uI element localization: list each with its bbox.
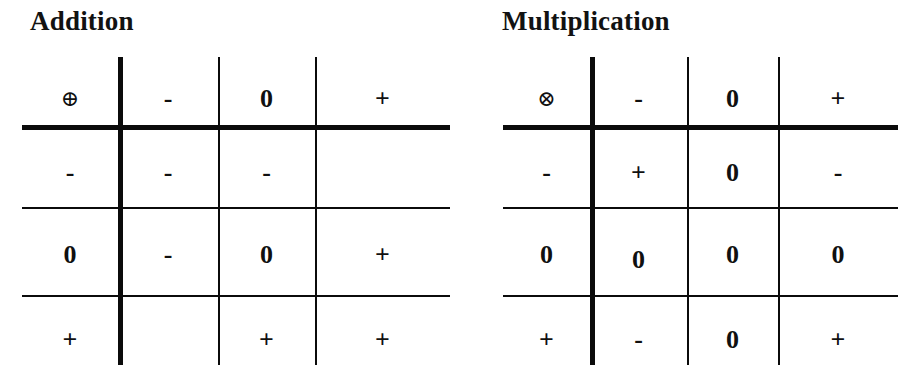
table-cell: +: [315, 312, 450, 367]
addition-table-grid: ⊕ - 0 + - - - 0 - 0 + + + +: [22, 57, 450, 367]
multiplication-operator-symbol: ⊗: [503, 73, 590, 125]
multiplication-row-header-0: -: [503, 145, 590, 201]
table-cell: +: [315, 225, 450, 285]
addition-row-rule-2: [22, 295, 450, 297]
table-cell: -: [118, 145, 218, 201]
addition-operator-symbol: ⊕: [22, 73, 118, 125]
multiplication-row-rule-1: [503, 207, 898, 209]
multiplication-row-rule-2: [503, 295, 898, 297]
addition-row-rule-1: [22, 207, 450, 209]
circled-times-icon: ⊗: [537, 88, 555, 110]
multiplication-table-block: Multiplication ⊗ - 0 + - + 0 - 0 0 0: [480, 0, 887, 377]
table-cell: 0: [687, 145, 778, 201]
table-cell: -: [778, 145, 898, 201]
multiplication-col-header-1: 0: [687, 73, 778, 125]
table-cell: 0: [687, 225, 778, 285]
table-cell: [118, 312, 218, 367]
multiplication-col-header-0: -: [590, 73, 687, 125]
addition-row-header-0: -: [22, 145, 118, 201]
multiplication-table-title: Multiplication: [502, 8, 670, 35]
table-cell: +: [218, 312, 315, 367]
table-cell: 0: [687, 312, 778, 367]
multiplication-row-header-2: +: [503, 312, 590, 367]
addition-row-header-2: +: [22, 312, 118, 367]
table-cell: +: [778, 312, 898, 367]
multiplication-col-header-2: +: [778, 73, 898, 125]
multiplication-header-rule: [503, 125, 898, 130]
addition-table-title: Addition: [30, 8, 134, 35]
addition-col-header-1: 0: [218, 73, 315, 125]
table-cell: 0: [218, 225, 315, 285]
table-cell: -: [218, 145, 315, 201]
addition-header-rule: [22, 125, 450, 130]
multiplication-row-header-1: 0: [503, 225, 590, 285]
table-cell: 0: [778, 225, 898, 285]
addition-col-header-2: +: [315, 73, 450, 125]
table-cell: 0: [590, 230, 687, 290]
addition-table-block: Addition ⊕ - 0 + - - - 0 - 0 +: [0, 0, 460, 377]
table-cell: +: [590, 145, 687, 201]
table-cell: -: [590, 312, 687, 367]
circled-plus-icon: ⊕: [61, 88, 79, 110]
table-cell: -: [118, 225, 218, 285]
table-cell: [315, 145, 450, 201]
addition-row-header-1: 0: [22, 225, 118, 285]
addition-col-header-0: -: [118, 73, 218, 125]
multiplication-table-grid: ⊗ - 0 + - + 0 - 0 0 0 0 + - 0 +: [503, 57, 898, 367]
